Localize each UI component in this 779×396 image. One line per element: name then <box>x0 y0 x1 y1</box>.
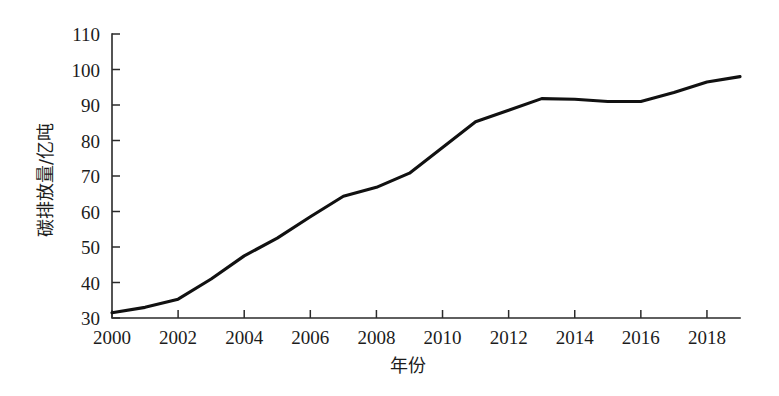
y-tick-label: 80 <box>81 131 100 152</box>
axis-lines <box>112 34 740 318</box>
y-tick-label: 50 <box>81 237 100 258</box>
y-tick-label: 110 <box>72 24 100 45</box>
x-axis-tick-labels: 2000200220042006200820102012201420162018 <box>93 327 726 348</box>
y-tick-label: 90 <box>81 95 100 116</box>
x-tick-label: 2018 <box>688 327 726 348</box>
x-tick-label: 2010 <box>424 327 462 348</box>
x-tick-label: 2004 <box>225 327 264 348</box>
y-tick-label: 100 <box>72 60 101 81</box>
y-tick-label: 30 <box>81 308 100 329</box>
carbon-emission-line-chart: 30405060708090100110 2000200220042006200… <box>0 0 779 396</box>
x-axis-tick-marks <box>112 310 707 318</box>
y-tick-label: 40 <box>81 273 100 294</box>
carbon-emission-series-line <box>112 77 740 313</box>
chart-canvas: 30405060708090100110 2000200220042006200… <box>0 0 779 396</box>
y-axis-tick-labels: 30405060708090100110 <box>72 24 101 329</box>
y-tick-label: 70 <box>81 166 100 187</box>
y-axis-tick-marks <box>112 34 120 318</box>
x-tick-label: 2016 <box>622 327 660 348</box>
plot-axes <box>112 34 740 318</box>
x-tick-label: 2012 <box>490 327 528 348</box>
x-tick-label: 2006 <box>291 327 329 348</box>
x-tick-label: 2014 <box>556 327 595 348</box>
x-tick-label: 2008 <box>357 327 395 348</box>
y-axis-title: 碳排放量/亿吨 <box>35 123 56 237</box>
x-tick-label: 2002 <box>159 327 197 348</box>
y-tick-label: 60 <box>81 202 100 223</box>
x-tick-label: 2000 <box>93 327 131 348</box>
data-series-group <box>112 77 740 313</box>
x-axis-title: 年份 <box>390 355 426 376</box>
